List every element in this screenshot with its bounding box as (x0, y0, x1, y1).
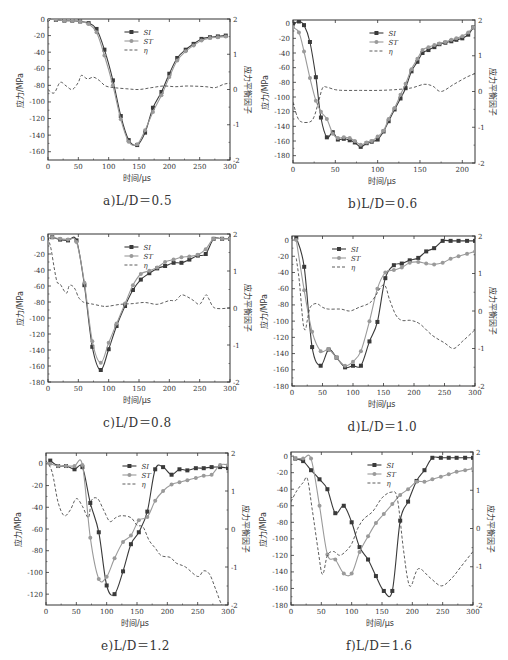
marker-circle (75, 240, 79, 244)
marker-square (145, 510, 149, 514)
marker-circle (404, 82, 408, 86)
legend-label-ST: ST (351, 255, 362, 263)
marker-circle (194, 476, 198, 480)
marker-circle (382, 512, 386, 516)
marker-circle (56, 464, 60, 468)
marker-circle (359, 143, 363, 147)
marker-square (367, 339, 371, 343)
marker-circle (177, 480, 181, 484)
x-tick-label: 250 (193, 163, 206, 171)
marker-circle (333, 558, 337, 562)
marker-circle (163, 260, 167, 264)
y-tick-label: -160 (274, 138, 290, 146)
y-tick-label: -120 (29, 115, 45, 123)
x-axis-label: 时间/μs (123, 394, 151, 405)
marker-circle (80, 463, 84, 467)
legend-label-eta: η (386, 480, 391, 488)
marker-circle (327, 348, 331, 352)
series-group (46, 17, 230, 147)
y-axis-label-left: 应力/MPa (257, 512, 268, 547)
x-tick-label: 100 (345, 608, 358, 616)
y-right-tick-label: -1 (476, 563, 483, 571)
marker-circle (187, 254, 191, 258)
y-axis-right: 210-1-2 (472, 233, 485, 391)
y-tick-label: -140 (274, 123, 290, 131)
marker-circle (119, 117, 123, 121)
y-tick-label: -40 (278, 269, 289, 277)
x-tick-label: 100 (102, 163, 115, 171)
y-tick-label: -120 (272, 552, 288, 560)
marker-square (441, 239, 445, 243)
marker-circle (318, 504, 322, 508)
chart-panel-c: 0501001502002503000-20-40-60-80-100-120-… (0, 220, 254, 440)
marker-circle (415, 57, 419, 61)
marker-square (325, 135, 329, 139)
x-tick-label: 50 (72, 608, 81, 616)
marker-circle (147, 269, 151, 273)
y-right-tick-label: -2 (233, 379, 240, 387)
legend: SISTη (124, 29, 154, 55)
x-tick-label: 150 (375, 608, 388, 616)
y-right-tick-label: 1 (478, 52, 482, 60)
marker-square (471, 456, 475, 460)
marker-square (210, 465, 214, 469)
x-tick-label: 200 (406, 608, 419, 616)
y-axis-label-right: 应力平衡因子 (488, 287, 499, 335)
panel-caption: f)L/D＝1.6 (346, 636, 412, 653)
marker-circle (297, 30, 301, 34)
y-tick-label: -80 (277, 519, 288, 527)
x-tick-label: 50 (74, 385, 83, 393)
y-right-tick-label: -1 (478, 345, 485, 353)
marker-circle (443, 40, 447, 44)
y-tick-label: -180 (273, 383, 289, 391)
x-tick-label: 100 (371, 166, 384, 174)
x-tick-label: 150 (132, 163, 145, 171)
y-tick-label: -20 (279, 35, 290, 43)
panel-caption: e)L/D＝1.2 (101, 636, 170, 653)
marker-circle (62, 19, 66, 23)
legend-label-SI: SI (141, 463, 149, 471)
y-tick-label: -160 (272, 585, 288, 593)
series-group (48, 235, 232, 372)
y-tick-label: -160 (29, 148, 45, 156)
marker-circle (50, 235, 54, 239)
x-tick-label: 50 (331, 166, 340, 174)
chart-panel-e: 0501001502002503000-20-40-60-80-100-1202… (0, 440, 254, 660)
y-axis-label-left: 应力/MPa (259, 75, 270, 110)
y-tick-label: -40 (34, 49, 45, 57)
y-tick-label: -40 (32, 504, 43, 512)
x-tick-label: 0 (291, 166, 295, 174)
x-axis: 050100150200250300 (46, 234, 237, 393)
y-right-tick-label: 2 (233, 231, 237, 239)
marker-circle (135, 142, 139, 146)
marker-circle (342, 135, 346, 139)
marker-circle (398, 493, 402, 497)
marker-circle (99, 361, 103, 365)
marker-circle (370, 139, 374, 143)
x-axis-label: 时间/μs (123, 172, 151, 183)
marker-square (375, 320, 379, 324)
x-axis: 050100150200250300 (44, 453, 235, 616)
legend: SISTη (369, 30, 399, 56)
marker-square (291, 22, 295, 26)
marker-circle (439, 475, 443, 479)
y-tick-label: -120 (273, 334, 289, 342)
marker-circle (374, 521, 378, 525)
x-axis-label: 时间/μs (368, 175, 396, 186)
marker-circle (383, 270, 387, 274)
marker-circle (153, 499, 157, 503)
y-tick-label: -100 (272, 535, 288, 543)
marker-circle (359, 349, 363, 353)
marker-square (424, 249, 428, 253)
y-tick-label: -60 (278, 285, 289, 293)
marker-circle (161, 489, 165, 493)
marker-square (113, 592, 117, 596)
marker-circle (88, 536, 92, 540)
marker-circle (392, 268, 396, 272)
y-tick-label: -60 (34, 283, 45, 291)
marker-circle (353, 139, 357, 143)
y-tick-label: -140 (273, 350, 289, 358)
marker-circle (115, 322, 119, 326)
marker-circle (408, 261, 412, 265)
x-tick-label: 150 (130, 608, 143, 616)
